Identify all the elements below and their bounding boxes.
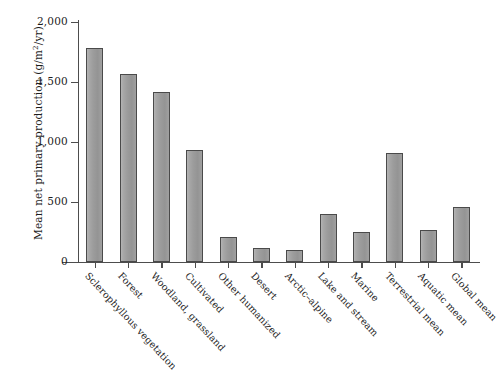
- x-axis-tick: [428, 263, 429, 268]
- x-axis-tick: [361, 263, 362, 268]
- x-axis-tick: [295, 263, 296, 268]
- y-axis-title: Mean net primary production (g/m2/yr): [26, 0, 50, 268]
- y-axis-tick-label-wrap: 500: [14, 202, 68, 203]
- y-axis-tick-label: 1,500: [18, 75, 68, 87]
- x-axis-tick: [228, 263, 229, 268]
- y-axis-tick: [71, 262, 79, 263]
- y-axis-tick-label: 2,000: [18, 15, 68, 27]
- x-axis-line: [62, 262, 480, 263]
- y-axis-title-tail: /yr): [32, 26, 44, 45]
- bar[interactable]: [186, 150, 203, 262]
- bar[interactable]: [320, 214, 337, 262]
- bar[interactable]: [286, 250, 303, 262]
- x-axis-label: Desert: [249, 270, 280, 302]
- y-axis-tick-label-wrap: 2,000: [14, 22, 68, 23]
- y-axis-tick-label: 500: [18, 195, 68, 207]
- y-axis-title-superscript: 2: [32, 45, 40, 50]
- bar[interactable]: [253, 248, 270, 262]
- bars-layer: [78, 22, 478, 262]
- x-axis-tick: [128, 263, 129, 268]
- y-axis-tick-label: 1,000: [18, 135, 68, 147]
- y-axis-tick-label-wrap: 0: [14, 262, 68, 263]
- x-axis-label: Terrestrial mean: [383, 270, 447, 338]
- x-axis-tick: [328, 263, 329, 268]
- x-axis-tick: [395, 263, 396, 268]
- bar[interactable]: [386, 153, 403, 262]
- x-axis-label: Marine: [349, 270, 381, 304]
- x-axis-label: Other humanized: [216, 270, 283, 340]
- bar[interactable]: [86, 48, 103, 262]
- y-axis-tick-label-wrap: 1,000: [14, 142, 68, 143]
- bar[interactable]: [220, 237, 237, 262]
- bar[interactable]: [420, 230, 437, 262]
- bar[interactable]: [353, 232, 370, 262]
- x-axis-tick: [195, 263, 196, 268]
- x-axis-label: Forest: [116, 270, 146, 301]
- x-axis-tick: [161, 263, 162, 268]
- y-axis-tick-label: 0: [18, 255, 68, 267]
- x-axis-tick: [261, 263, 262, 268]
- bar[interactable]: [453, 207, 470, 262]
- x-axis-tick: [461, 263, 462, 268]
- bar[interactable]: [153, 92, 170, 262]
- bar[interactable]: [120, 74, 137, 262]
- x-axis-tick: [95, 263, 96, 268]
- y-axis-tick-label-wrap: 1,500: [14, 82, 68, 83]
- x-axis-label: Lake and stream: [316, 270, 381, 338]
